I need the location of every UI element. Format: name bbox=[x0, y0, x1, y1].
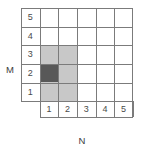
gridline-tickrow-v-5 bbox=[114, 101, 115, 117]
gridline-tickrow-v-4 bbox=[96, 101, 97, 117]
axis-label-n: N bbox=[74, 133, 90, 147]
m-tick-3: 3 bbox=[21, 45, 40, 64]
m-tick-2: 2 bbox=[21, 64, 40, 83]
gridline-tickrow-bottom bbox=[40, 117, 134, 118]
coordinate-grid-figure: 5 4 3 2 1 1 2 3 4 5 M N bbox=[0, 0, 150, 153]
m-tick-5: 5 bbox=[21, 8, 40, 27]
n-tick-4: 4 bbox=[96, 101, 115, 117]
gridline-tickrow-v-1 bbox=[40, 101, 41, 117]
n-tick-2: 2 bbox=[58, 101, 77, 117]
n-tick-1: 1 bbox=[40, 101, 59, 117]
gridline-tickrow-v-2 bbox=[58, 101, 59, 117]
axis-label-m: M bbox=[2, 62, 18, 76]
gridline-leftcol-bottom bbox=[21, 101, 40, 102]
gridline-tickrow-top bbox=[40, 101, 133, 102]
m-tick-1: 1 bbox=[21, 83, 40, 102]
corner-blank bbox=[20, 102, 40, 118]
n-tick-3: 3 bbox=[77, 101, 96, 117]
m-tick-4: 4 bbox=[21, 27, 40, 46]
gridline-tickrow-v-3 bbox=[77, 101, 78, 117]
n-tick-5: 5 bbox=[114, 101, 133, 117]
gridline-tickrow-v-6 bbox=[133, 101, 134, 117]
grid-area: 5 4 3 2 1 1 2 3 4 5 bbox=[21, 8, 133, 118]
